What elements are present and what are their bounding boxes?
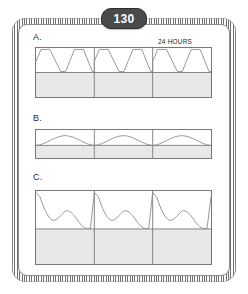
hours-axis-label: 24 HOURS [158, 38, 192, 45]
waveform-c [36, 192, 211, 228]
chart-b-svg [36, 130, 211, 158]
figure-content: A. 24 HOURS B. [0, 0, 248, 294]
waveform-b [36, 136, 211, 146]
chart-panel-c [35, 190, 212, 265]
shaded-band-a [36, 73, 211, 98]
shaded-band-b [36, 145, 211, 158]
panel-label-a: A. [33, 32, 42, 42]
panel-label-c: C. [33, 172, 42, 182]
page-number-badge: 130 [101, 8, 147, 29]
chart-panel-a [35, 47, 212, 98]
shaded-band-c [36, 229, 211, 264]
waveform-a [36, 49, 211, 71]
chart-a-svg [36, 48, 211, 97]
page-number-text: 130 [113, 13, 134, 25]
chart-panel-b [35, 129, 212, 159]
chart-c-svg [36, 191, 211, 264]
panel-label-b: B. [33, 113, 42, 123]
figure-root: 130 A. 24 HOURS B. [0, 0, 248, 294]
